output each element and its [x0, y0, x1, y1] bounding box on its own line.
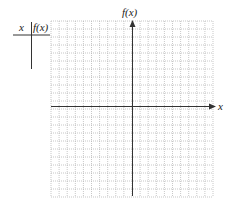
- x-axis-label: x: [218, 101, 223, 112]
- coordinate-grid: [0, 0, 227, 208]
- y-axis-label: f(x): [122, 7, 137, 18]
- y-axis-arrow-icon: [130, 20, 136, 27]
- x-axis-arrow-icon: [209, 104, 216, 110]
